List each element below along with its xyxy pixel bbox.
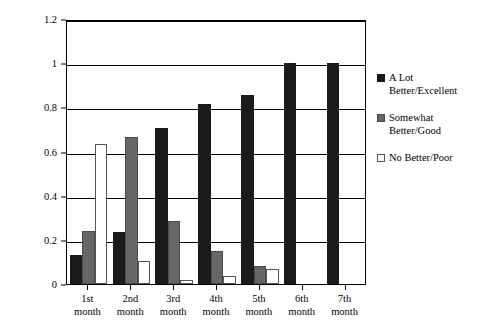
plot-area: [66, 20, 366, 285]
x-axis-tick-mark: [216, 285, 217, 290]
legend-item[interactable]: SomewhatBetter/Good: [377, 112, 489, 137]
x-axis-tick-label-line: 3rd: [160, 293, 187, 306]
legend-label: SomewhatBetter/Good: [389, 112, 489, 137]
legend-label-line: Somewhat: [389, 112, 489, 125]
x-axis-tick-label: 7thmonth: [331, 293, 358, 318]
y-axis-tick-label: 0: [52, 280, 57, 291]
bar[interactable]: [180, 280, 193, 284]
y-axis: 00.20.40.60.811.2: [0, 0, 66, 305]
y-axis-tick-label: 0.6: [44, 147, 57, 158]
bar[interactable]: [125, 137, 138, 284]
legend-swatch: [377, 114, 385, 122]
x-axis-tick-label-line: month: [203, 306, 230, 319]
bar-group: [284, 21, 322, 284]
bar[interactable]: [284, 63, 297, 284]
x-axis: 1stmonth2ndmonth3rdmonth4thmonth5thmonth…: [66, 285, 366, 331]
x-axis-tick-label-line: month: [74, 306, 101, 319]
x-axis-tick-mark: [259, 285, 260, 290]
bar[interactable]: [211, 251, 224, 284]
x-axis-tick-label-line: month: [160, 306, 187, 319]
bar[interactable]: [70, 255, 83, 284]
x-axis-tick-label-line: 5th: [245, 293, 272, 306]
x-axis-tick-mark: [173, 285, 174, 290]
bar[interactable]: [198, 104, 211, 284]
legend-item[interactable]: No Better/Poor: [377, 152, 489, 165]
bar-group: [198, 21, 236, 284]
legend-swatch: [377, 74, 385, 82]
legend-label-line: No Better/Poor: [389, 152, 489, 165]
bar-group: [70, 21, 108, 284]
y-axis-tick-label: 1: [52, 59, 57, 70]
x-axis-tick-label-line: 1st: [74, 293, 101, 306]
x-axis-tick-label: 5thmonth: [245, 293, 272, 318]
legend-label: No Better/Poor: [389, 152, 489, 165]
x-axis-tick-mark: [87, 285, 88, 290]
legend-label-line: Better/Excellent: [389, 85, 489, 98]
legend-label: A LotBetter/Excellent: [389, 72, 489, 97]
x-axis-tick-label: 2ndmonth: [117, 293, 144, 318]
bar[interactable]: [168, 221, 181, 284]
bar[interactable]: [95, 144, 108, 284]
x-axis-tick-label-line: 6th: [288, 293, 315, 306]
chart-legend: A LotBetter/ExcellentSomewhatBetter/Good…: [377, 72, 489, 180]
x-axis-tick-label-line: month: [117, 306, 144, 319]
bar-groups: [67, 21, 365, 284]
x-axis-tick-label: 4thmonth: [203, 293, 230, 318]
x-axis-tick-mark: [130, 285, 131, 290]
bar-group: [113, 21, 151, 284]
x-axis-tick-mark: [302, 285, 303, 290]
legend-item[interactable]: A LotBetter/Excellent: [377, 72, 489, 97]
x-axis-tick-label-line: month: [245, 306, 272, 319]
bar[interactable]: [241, 95, 254, 284]
y-axis-tick-label: 0.4: [44, 191, 57, 202]
y-axis-tick-label: 1.2: [44, 15, 57, 26]
y-axis-tick-label: 0.8: [44, 103, 57, 114]
bar[interactable]: [113, 232, 126, 284]
x-axis-tick-label-line: month: [331, 306, 358, 319]
bar[interactable]: [254, 266, 267, 284]
legend-swatch: [377, 154, 385, 162]
bar[interactable]: [266, 269, 279, 284]
x-axis-tick-label-line: 4th: [203, 293, 230, 306]
legend-label-line: A Lot: [389, 72, 489, 85]
bar[interactable]: [82, 231, 95, 284]
x-axis-tick-label: 6thmonth: [288, 293, 315, 318]
chart-container: 00.20.40.60.811.2 1stmonth2ndmonth3rdmon…: [0, 0, 496, 331]
bar[interactable]: [155, 128, 168, 284]
bar[interactable]: [223, 276, 236, 284]
bar[interactable]: [327, 63, 340, 284]
bar[interactable]: [138, 261, 151, 284]
bar-group: [155, 21, 193, 284]
x-axis-tick-label: 3rdmonth: [160, 293, 187, 318]
x-axis-tick-label-line: 2nd: [117, 293, 144, 306]
bar-group: [327, 21, 365, 284]
x-axis-tick-label-line: month: [288, 306, 315, 319]
legend-label-line: Better/Good: [389, 125, 489, 138]
bar-group: [241, 21, 279, 284]
y-axis-tick-label: 0.2: [44, 236, 57, 247]
x-axis-tick-mark: [345, 285, 346, 290]
x-axis-tick-label-line: 7th: [331, 293, 358, 306]
x-axis-tick-label: 1stmonth: [74, 293, 101, 318]
